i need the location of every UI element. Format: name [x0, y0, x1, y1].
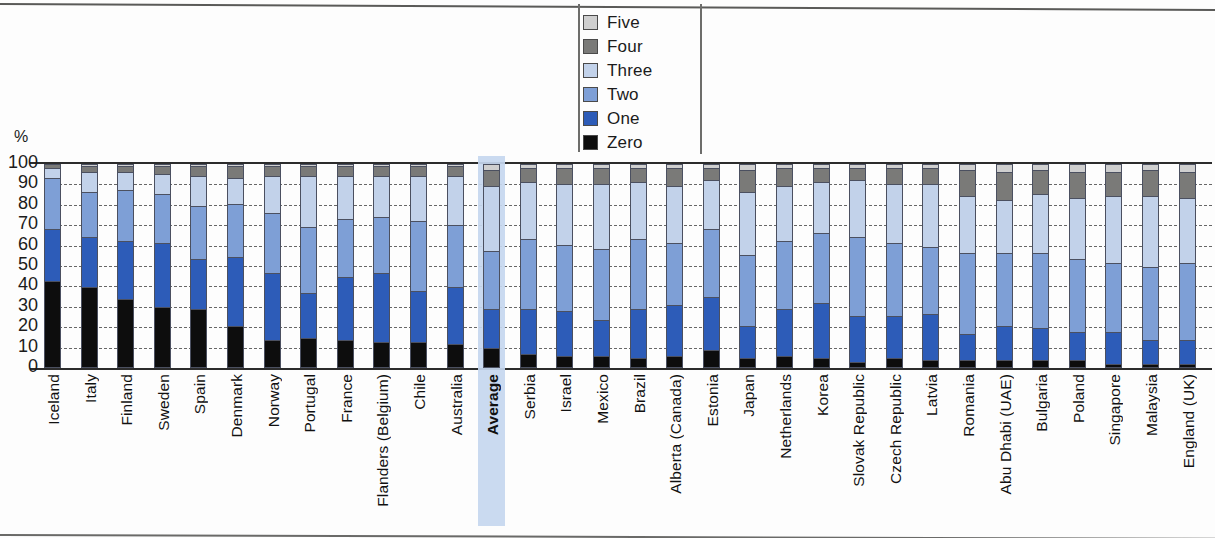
bar-column[interactable]	[410, 164, 427, 368]
stacked-bar[interactable]	[300, 164, 317, 368]
bar-column[interactable]	[483, 164, 500, 368]
bar-column[interactable]	[117, 164, 134, 368]
stacked-bar[interactable]	[264, 164, 281, 368]
stacked-bar[interactable]	[520, 164, 537, 368]
bar-segment-four	[960, 171, 975, 197]
bar-column[interactable]	[703, 164, 720, 368]
x-label-bulgaria: Bulgaria	[1033, 374, 1050, 432]
x-label-estonia: Estonia	[704, 374, 721, 426]
stacked-bar[interactable]	[1142, 164, 1159, 368]
bar-segment-four	[997, 173, 1012, 201]
stacked-bar[interactable]	[886, 164, 903, 368]
stacked-bar[interactable]	[373, 164, 390, 368]
bar-column[interactable]	[666, 164, 683, 368]
bar-segment-four	[594, 169, 609, 185]
bar-segment-four	[301, 167, 316, 177]
bar-segment-two	[740, 256, 755, 327]
stacked-bar[interactable]	[630, 164, 647, 368]
stacked-bar[interactable]	[776, 164, 793, 368]
legend-item-five[interactable]: Five	[583, 10, 701, 34]
bar-segment-three	[191, 177, 206, 207]
bar-column[interactable]	[1105, 164, 1122, 368]
bar-column[interactable]	[1142, 164, 1159, 368]
legend-item-two[interactable]: Two	[583, 82, 701, 106]
bar-segment-zero	[704, 351, 719, 367]
bar-column[interactable]	[373, 164, 390, 368]
x-label-latvia: Latvia	[923, 374, 940, 416]
x-label-poland: Poland	[1070, 374, 1087, 423]
y-tick-label-40: 40	[18, 275, 38, 293]
legend-item-four[interactable]: Four	[583, 34, 701, 58]
bar-column[interactable]	[813, 164, 830, 368]
bar-segment-three	[411, 177, 426, 221]
bar-column[interactable]	[922, 164, 939, 368]
stacked-bar[interactable]	[1105, 164, 1122, 368]
bar-column[interactable]	[81, 164, 98, 368]
stacked-bar[interactable]	[959, 164, 976, 368]
bar-column[interactable]	[593, 164, 610, 368]
stacked-bar[interactable]	[666, 164, 683, 368]
stacked-bar[interactable]	[556, 164, 573, 368]
bar-column[interactable]	[44, 164, 61, 368]
bar-column[interactable]	[849, 164, 866, 368]
bar-column[interactable]	[1069, 164, 1086, 368]
bar-column[interactable]	[996, 164, 1013, 368]
stacked-bar[interactable]	[593, 164, 610, 368]
bar-column[interactable]	[264, 164, 281, 368]
bar-column[interactable]	[520, 164, 537, 368]
legend-item-one[interactable]: One	[583, 106, 701, 130]
bar-column[interactable]	[1179, 164, 1196, 368]
stacked-bar[interactable]	[337, 164, 354, 368]
stacked-bar[interactable]	[922, 164, 939, 368]
bar-segment-two	[118, 191, 133, 242]
stacked-bar[interactable]	[996, 164, 1013, 368]
stacked-bar[interactable]	[1069, 164, 1086, 368]
bar-segment-four	[557, 169, 572, 185]
stacked-bar[interactable]	[813, 164, 830, 368]
stacked-bar[interactable]	[227, 164, 244, 368]
stacked-bar[interactable]	[117, 164, 134, 368]
bar-column[interactable]	[447, 164, 464, 368]
legend-item-zero[interactable]: Zero	[583, 130, 701, 154]
y-tick-label-90: 90	[18, 173, 38, 191]
bar-segment-one	[997, 327, 1012, 361]
bar-segment-three	[960, 197, 975, 254]
bar-column[interactable]	[1032, 164, 1049, 368]
stacked-bar[interactable]	[1032, 164, 1049, 368]
bar-segment-zero	[1070, 361, 1085, 367]
bar-segment-five	[1106, 165, 1121, 173]
bar-segment-one	[448, 288, 463, 345]
y-tick-label-20: 20	[18, 316, 38, 334]
bar-segment-two	[265, 214, 280, 275]
bar-column[interactable]	[959, 164, 976, 368]
stacked-bar[interactable]	[190, 164, 207, 368]
stacked-bar[interactable]	[703, 164, 720, 368]
x-label-netherlands: Netherlands	[777, 374, 794, 459]
stacked-bar[interactable]	[81, 164, 98, 368]
bar-column[interactable]	[556, 164, 573, 368]
stacked-bar[interactable]	[447, 164, 464, 368]
bar-column[interactable]	[190, 164, 207, 368]
bar-segment-zero	[228, 327, 243, 367]
stacked-bar[interactable]	[739, 164, 756, 368]
y-tick-label-50: 50	[18, 255, 38, 273]
bar-segment-zero	[850, 363, 865, 367]
stacked-bar[interactable]	[410, 164, 427, 368]
bar-column[interactable]	[776, 164, 793, 368]
bar-column[interactable]	[630, 164, 647, 368]
legend-item-three[interactable]: Three	[583, 58, 701, 82]
bar-column[interactable]	[337, 164, 354, 368]
stacked-bar[interactable]	[44, 164, 61, 368]
stacked-bar[interactable]	[849, 164, 866, 368]
bar-column[interactable]	[739, 164, 756, 368]
bar-segment-one	[1180, 341, 1195, 365]
bar-segment-three	[265, 177, 280, 213]
x-label-romania: Romania	[960, 374, 977, 437]
stacked-bar[interactable]	[483, 164, 500, 368]
bar-column[interactable]	[154, 164, 171, 368]
bar-column[interactable]	[300, 164, 317, 368]
stacked-bar[interactable]	[154, 164, 171, 368]
bar-column[interactable]	[227, 164, 244, 368]
stacked-bar[interactable]	[1179, 164, 1196, 368]
bar-column[interactable]	[886, 164, 903, 368]
